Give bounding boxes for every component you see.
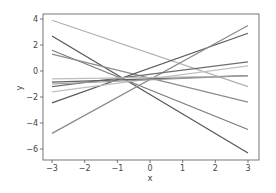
- y-tick-label: 0: [33, 67, 38, 76]
- y-axis-label: y: [14, 85, 24, 90]
- line-chart: −3−2−10123 420−2−4−6 x y: [0, 0, 276, 193]
- x-tick-label: −1: [111, 164, 123, 173]
- y-tick-label: −4: [26, 119, 38, 128]
- y-tick-label: 2: [33, 41, 38, 50]
- x-axis-label: x: [147, 173, 152, 183]
- y-tick-label: −6: [26, 145, 38, 154]
- series-line-5: [52, 33, 248, 103]
- x-tick-label: −2: [79, 164, 91, 173]
- x-tick-label: 2: [213, 164, 218, 173]
- x-tick-label: 1: [180, 164, 185, 173]
- x-tick-label: −3: [46, 164, 58, 173]
- series-line-11: [52, 76, 248, 84]
- x-tick-label: 3: [245, 164, 250, 173]
- x-axis-ticks: −3−2−10123: [46, 160, 250, 173]
- plot-lines: [52, 20, 248, 153]
- axes-frame: [43, 14, 259, 160]
- x-tick-label: 0: [147, 164, 152, 173]
- y-tick-label: −2: [26, 93, 38, 102]
- y-tick-label: 4: [33, 15, 38, 24]
- y-axis-ticks: 420−2−4−6: [26, 15, 43, 154]
